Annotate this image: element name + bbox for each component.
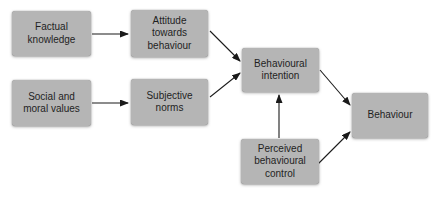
arrow-subjective-to-intention [210,73,240,97]
node-social-and-moral-values: Social and moral values [12,80,91,126]
node-behavioural-intention: Behavioural intention [242,48,319,92]
node-subjective-norms: Subjective norms [131,79,208,125]
node-perceived-behavioural-control: Perceived behavioural control [241,139,319,184]
arrow-attitude-to-intention [210,31,240,61]
node-factual-knowledge: Factual knowledge [12,11,91,56]
arrow-pbc-to-behaviour [318,132,350,164]
diagram-canvas: Factual knowledge Social and moral value… [0,0,441,199]
node-attitude-towards-behaviour: Attitude towards behaviour [131,10,208,57]
arrow-intention-to-behaviour [320,70,350,105]
node-behaviour: Behaviour [352,93,428,138]
